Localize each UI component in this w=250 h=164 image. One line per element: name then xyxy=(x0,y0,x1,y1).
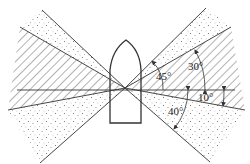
boat-outline xyxy=(110,40,141,123)
angle-label-40: 40° xyxy=(168,105,183,117)
angle-label-30: 30° xyxy=(188,60,203,72)
angle-label-45: 45° xyxy=(156,70,171,82)
diagram-canvas: 45° 30° 10° 40° xyxy=(0,0,250,164)
sector-diagram: 45° 30° 10° 40° xyxy=(0,0,250,164)
angle-label-10: 10° xyxy=(198,91,213,103)
